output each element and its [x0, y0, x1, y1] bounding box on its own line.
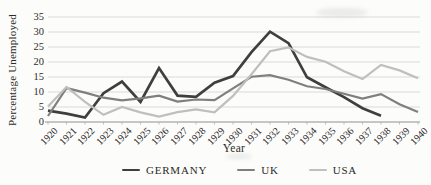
- legend-item-germany: GERMANY: [122, 164, 207, 176]
- legend: GERMANYUKUSA: [48, 161, 431, 179]
- y-tick-label-15: 15: [34, 71, 45, 83]
- legend-label-germany: GERMANY: [146, 164, 207, 176]
- y-tick-label-5: 5: [39, 101, 44, 113]
- y-axis-title: Percentage Unemployed: [6, 14, 18, 126]
- legend-swatch-germany: [122, 169, 140, 172]
- x-axis-title: Year: [48, 142, 420, 154]
- y-tick-label-35: 35: [34, 11, 45, 23]
- y-tick-label-0: 0: [39, 116, 44, 128]
- y-tick-label-30: 30: [34, 26, 45, 38]
- series-line-usa: [48, 47, 418, 116]
- chart-plot-area: [0, 0, 431, 185]
- y-tick-label-10: 10: [34, 86, 45, 98]
- legend-swatch-uk: [237, 169, 255, 171]
- unemployment-chart: Percentage Unemployed 05101520253035 192…: [0, 0, 431, 185]
- y-tick-label-20: 20: [34, 56, 45, 68]
- legend-swatch-usa: [309, 169, 327, 171]
- series-line-germany: [48, 32, 381, 118]
- y-tick-label-25: 25: [34, 41, 45, 53]
- legend-item-usa: USA: [309, 164, 357, 176]
- legend-label-uk: UK: [261, 164, 279, 176]
- legend-item-uk: UK: [237, 164, 279, 176]
- legend-label-usa: USA: [333, 164, 357, 176]
